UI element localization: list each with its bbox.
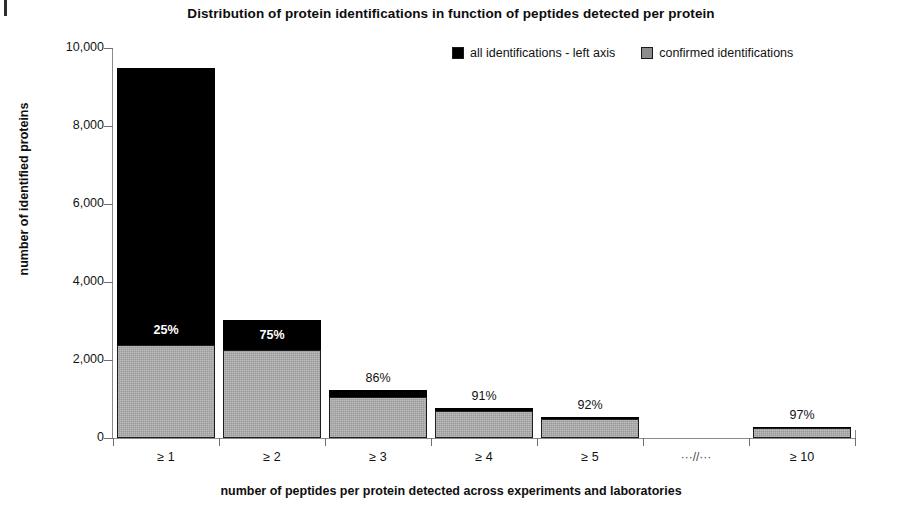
bar-segment-confirmed-identifications[interactable] xyxy=(329,397,427,438)
bar-segment-confirmed-identifications[interactable] xyxy=(541,419,639,438)
bar-percentage-label-above: 86% xyxy=(329,371,427,385)
bar-group[interactable]: 25% xyxy=(117,68,215,439)
y-tick-mark xyxy=(104,438,113,439)
x-axis-category-label: ≥ 4 xyxy=(431,450,537,464)
chart-title: Distribution of protein identifications … xyxy=(0,6,902,21)
bar-percentage-label-above: 91% xyxy=(435,389,533,403)
x-axis-category-label: ≥ 10 xyxy=(749,450,855,464)
bar-segment-all-identifications[interactable] xyxy=(117,68,215,346)
x-axis-category-label: ≥ 2 xyxy=(219,450,325,464)
plot-area: 25%75%86%91%92%97% xyxy=(113,48,855,438)
x-axis-category-label: ≥ 1 xyxy=(113,450,219,464)
bar-percentage-label-above: 97% xyxy=(753,408,851,422)
y-tick-mark xyxy=(104,360,113,361)
bar-segment-confirmed-identifications[interactable] xyxy=(223,350,321,438)
x-axis-category-label: ≥ 5 xyxy=(537,450,643,464)
y-tick-mark xyxy=(104,204,113,205)
bar-group[interactable]: 86% xyxy=(329,390,427,438)
bar-group[interactable]: 91% xyxy=(435,408,533,438)
x-tick-mark xyxy=(749,438,750,446)
bar-percentage-label-inside: 25% xyxy=(117,323,215,337)
x-tick-mark xyxy=(219,438,220,446)
y-tick-mark xyxy=(104,282,113,283)
x-tick-mark xyxy=(431,438,432,446)
bar-percentage-label-above: 92% xyxy=(541,398,639,412)
bar-segment-all-identifications[interactable] xyxy=(329,390,427,397)
bar-segment-confirmed-identifications[interactable] xyxy=(117,345,215,438)
x-tick-mark xyxy=(113,438,114,446)
x-tick-mark xyxy=(537,438,538,446)
bar-group[interactable]: 92% xyxy=(541,417,639,438)
bar-group[interactable]: 75% xyxy=(223,320,321,438)
y-tick-mark xyxy=(104,48,113,49)
x-tick-mark xyxy=(855,438,856,446)
bar-group[interactable]: 97% xyxy=(753,427,851,438)
x-axis-label: number of peptides per protein detected … xyxy=(0,484,902,498)
y-axis-label: number of identified proteins xyxy=(17,0,31,389)
chart-figure: Distribution of protein identifications … xyxy=(0,0,902,510)
bar-segment-confirmed-identifications[interactable] xyxy=(435,411,533,438)
x-axis-line xyxy=(104,438,856,439)
bar-percentage-label-inside: 75% xyxy=(223,328,321,342)
y-tick-label: 0 xyxy=(18,430,104,444)
x-axis-category-label: ≥ 3 xyxy=(325,450,431,464)
bar-segment-confirmed-identifications[interactable] xyxy=(753,428,851,438)
x-axis-break-marker: ···//··· xyxy=(643,450,749,464)
y-tick-mark xyxy=(104,126,113,127)
x-tick-mark xyxy=(325,438,326,446)
x-tick-mark xyxy=(643,438,644,446)
